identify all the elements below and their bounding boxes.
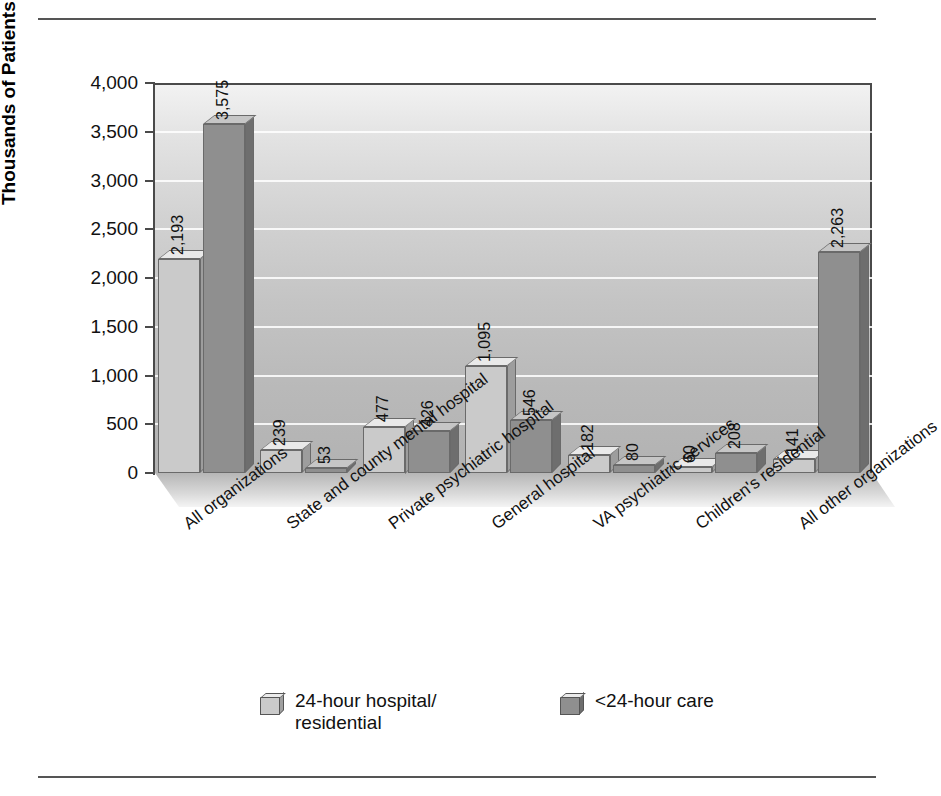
bar-front-face xyxy=(773,459,815,473)
y-tick-mark xyxy=(145,228,155,230)
legend-item[interactable]: <24-hour care xyxy=(560,690,714,715)
y-tick-mark xyxy=(145,326,155,328)
y-axis-line xyxy=(153,83,155,475)
y-axis-tick-labels: 05001,0001,5002,0002,5003,0003,5004,000 xyxy=(0,83,150,475)
gridline xyxy=(155,131,872,133)
legend-swatch-dark xyxy=(560,693,584,715)
y-tick-mark xyxy=(145,472,155,474)
bar-side-face xyxy=(245,115,254,473)
legend-item[interactable]: 24-hour hospital/residential xyxy=(260,690,437,735)
y-tick-label: 1,500 xyxy=(90,316,138,338)
bar-value-label: 80 xyxy=(624,443,642,461)
bar-front-face xyxy=(613,465,655,473)
gridline xyxy=(155,277,872,279)
bar xyxy=(510,420,552,473)
y-tick-mark xyxy=(145,180,155,182)
gridline xyxy=(155,180,872,182)
bar-value-label: 182 xyxy=(579,425,597,452)
legend-label-line2: residential xyxy=(295,712,382,733)
bar-value-label: 239 xyxy=(271,419,289,446)
y-tick-label: 0 xyxy=(127,462,138,484)
bar xyxy=(408,431,450,473)
bar xyxy=(670,467,712,473)
bar-front-face xyxy=(465,366,507,473)
bar xyxy=(305,468,347,473)
legend-label: 24-hour hospital/residential xyxy=(295,690,437,735)
y-tick-mark xyxy=(145,131,155,133)
bar xyxy=(158,259,200,473)
bar-front-face xyxy=(260,450,302,473)
bar-front-face xyxy=(158,259,200,473)
plot-area: 2,1933,575239534774261,09554618280602081… xyxy=(155,83,872,473)
bar-value-label: 426 xyxy=(419,401,437,428)
bar xyxy=(773,459,815,473)
bar-value-label: 2,263 xyxy=(829,208,847,248)
bar-front-face xyxy=(363,427,405,474)
bar-front-face xyxy=(408,431,450,473)
bar-front-face xyxy=(510,420,552,473)
bar-side-face xyxy=(860,243,869,473)
legend-label: <24-hour care xyxy=(595,690,714,712)
chart-legend: 24-hour hospital/residential<24-hour car… xyxy=(0,690,913,760)
bar-front-face xyxy=(305,468,347,473)
bar-front-face xyxy=(670,467,712,473)
gridline xyxy=(155,228,872,230)
bar xyxy=(203,124,245,473)
y-tick-mark xyxy=(145,375,155,377)
bar xyxy=(260,450,302,473)
y-tick-mark xyxy=(145,82,155,84)
bar-front-face xyxy=(715,453,757,473)
top-rule xyxy=(38,18,876,20)
y-tick-label: 3,000 xyxy=(90,170,138,192)
bar-front-face xyxy=(818,252,860,473)
y-tick-label: 2,000 xyxy=(90,267,138,289)
bar-value-label: 208 xyxy=(726,422,744,449)
bar xyxy=(818,252,860,473)
y-tick-mark xyxy=(145,423,155,425)
bottom-rule xyxy=(38,776,876,778)
bar-value-label: 1,095 xyxy=(476,322,494,362)
bar-value-label: 477 xyxy=(374,396,392,423)
y-tick-label: 2,500 xyxy=(90,218,138,240)
y-tick-mark xyxy=(145,277,155,279)
bar-value-label: 2,193 xyxy=(169,215,187,255)
bar xyxy=(613,465,655,473)
bar xyxy=(363,427,405,474)
bar xyxy=(715,453,757,473)
legend-swatch-light xyxy=(260,693,284,715)
chart-floor xyxy=(155,473,895,507)
bar-value-label: 141 xyxy=(784,429,802,456)
bar-value-label: 546 xyxy=(521,389,539,416)
y-tick-label: 1,000 xyxy=(90,365,138,387)
y-tick-label: 500 xyxy=(106,413,138,435)
gridline xyxy=(155,326,872,328)
bar-value-label: 53 xyxy=(316,446,334,464)
bar-value-label: 60 xyxy=(681,445,699,463)
y-tick-label: 3,500 xyxy=(90,121,138,143)
bar-front-face xyxy=(568,455,610,473)
y-tick-label: 4,000 xyxy=(90,72,138,94)
bar xyxy=(568,455,610,473)
bar xyxy=(465,366,507,473)
bar-side-face xyxy=(552,410,561,473)
bar-value-label: 3,575 xyxy=(214,80,232,120)
bar-front-face xyxy=(203,124,245,473)
